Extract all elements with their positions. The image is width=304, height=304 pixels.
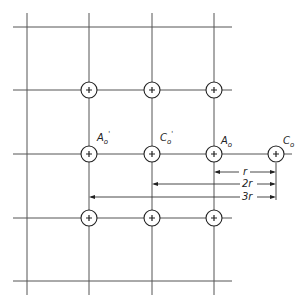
- lattice-diagram: Ao' Co' Ao Co r 2r 3r: [0, 0, 304, 304]
- label-c0: Co: [283, 135, 294, 149]
- label-a0: Ao: [220, 135, 232, 149]
- label-a0-prime: Ao': [96, 130, 110, 146]
- dimension-label-2r: 2r: [242, 178, 253, 189]
- dimension-label-r: r: [243, 166, 248, 177]
- dimension-label-3r: 3r: [242, 191, 253, 202]
- label-c0-prime: Co': [160, 130, 173, 146]
